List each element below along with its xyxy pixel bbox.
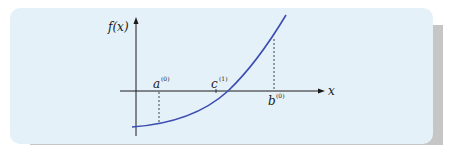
point-c-superscript: (1) <box>219 75 228 82</box>
point-b-superscript: (0) <box>276 92 285 99</box>
function-curve <box>132 15 286 127</box>
point-a-superscript: (0) <box>161 75 170 82</box>
bisection-diagram: f(x) x a (0) c (1) b (0) <box>0 0 455 157</box>
y-axis-label: f(x) <box>107 20 129 34</box>
y-axis-arrow-icon <box>134 17 139 24</box>
x-axis-arrow-icon <box>318 89 325 94</box>
point-a-label: a <box>153 77 160 91</box>
point-c-label: c <box>211 77 218 91</box>
point-b-label: b <box>268 94 276 108</box>
x-axis-label: x <box>328 84 335 98</box>
